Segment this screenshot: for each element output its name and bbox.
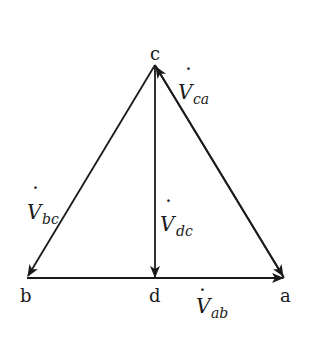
svg-text:ab: ab — [211, 305, 228, 321]
label-v-dc: · V dc — [160, 193, 193, 239]
svg-text:bc: bc — [42, 211, 59, 227]
point-label-d: d — [149, 285, 161, 306]
svg-text:dc: dc — [176, 223, 193, 239]
svg-text:ca: ca — [193, 91, 209, 107]
label-v-bc: · V bc — [27, 180, 59, 227]
point-label-c: c — [150, 43, 160, 64]
point-label-b: b — [20, 285, 32, 306]
point-label-a: a — [280, 285, 291, 306]
vector-v-bc — [28, 65, 155, 276]
label-v-ca: · V ca — [178, 61, 209, 107]
label-v-ab: · V ab — [196, 282, 228, 321]
svg-text:·: · — [166, 193, 171, 209]
svg-text:·: · — [186, 61, 191, 77]
svg-text:V: V — [160, 212, 177, 236]
vector-v-ca-shaft — [155, 65, 283, 276]
svg-text:·: · — [33, 180, 38, 196]
phasor-diagram: c b d a · V ca · V bc · V dc · V ab — [0, 0, 311, 341]
